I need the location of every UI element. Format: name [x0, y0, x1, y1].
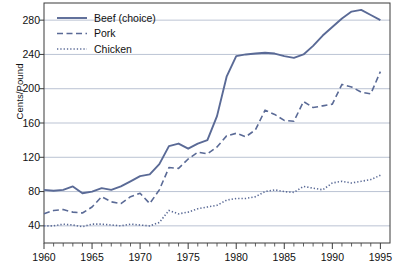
chart-container: 4080120160200240280 19601965197019751980…	[0, 0, 398, 279]
legend-label: Beef (choice)	[94, 13, 156, 24]
legend-label: Pork	[94, 28, 116, 39]
series-line-chicken	[44, 175, 380, 226]
legend-label: Chicken	[94, 44, 132, 55]
series-line-pork	[44, 72, 380, 214]
plot-area	[0, 0, 398, 279]
